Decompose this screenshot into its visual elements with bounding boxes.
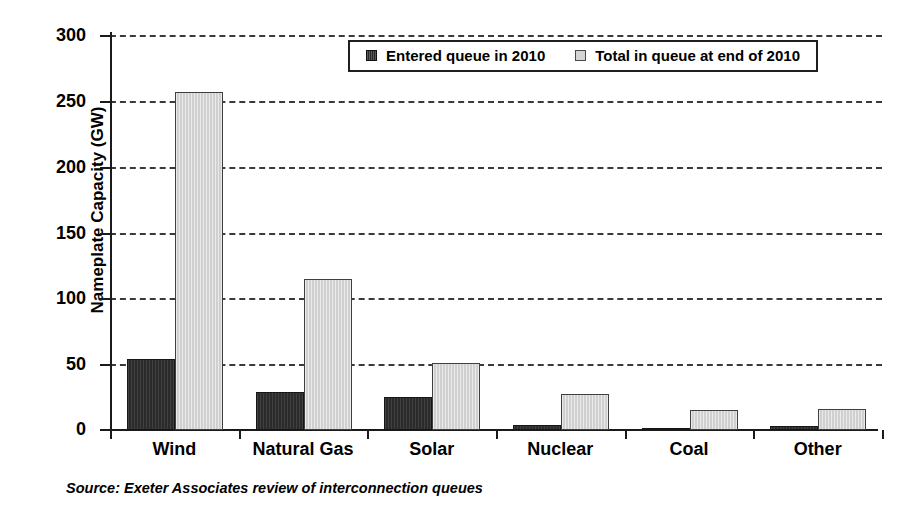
y-tick-label-200: 200 (56, 156, 86, 177)
bar-group-nuclear (496, 35, 625, 430)
light-square-icon (575, 50, 586, 61)
bar-group-other (753, 35, 882, 430)
bar-group-solar (367, 35, 496, 430)
bar-natural-gas-entered-queue[interactable] (256, 392, 304, 430)
y-tick-label-300: 300 (56, 25, 86, 46)
bar-group-natural-gas (239, 35, 368, 430)
bar-wind-total-queue[interactable] (175, 92, 223, 430)
y-axis-title: Nameplate Capacity (GW) (88, 20, 108, 400)
x-category-label-other: Other (753, 439, 882, 460)
bar-nuclear-total-queue[interactable] (561, 394, 609, 430)
x-tick-solar-left (367, 430, 369, 439)
x-tick-other-right (882, 430, 884, 439)
chart-legend: Entered queue in 2010 Total in queue at … (348, 40, 818, 72)
bar-other-entered-queue[interactable] (770, 426, 818, 430)
x-category-label-nuclear: Nuclear (496, 439, 625, 460)
x-tick-wind-left (110, 430, 112, 439)
x-tick-coal-left (625, 430, 627, 439)
dark-square-icon (366, 50, 377, 61)
bar-group-coal (625, 35, 754, 430)
bar-coal-total-queue[interactable] (690, 410, 738, 430)
bar-nuclear-entered-queue[interactable] (513, 425, 561, 430)
bar-group-wind (110, 35, 239, 430)
bar-coal-entered-queue[interactable] (642, 428, 690, 430)
x-category-label-natural-gas: Natural Gas (239, 439, 368, 460)
bar-other-total-queue[interactable] (818, 409, 866, 430)
legend-entry-total-queue[interactable]: Total in queue at end of 2010 (575, 47, 800, 64)
bar-natural-gas-total-queue[interactable] (304, 279, 352, 430)
bar-solar-entered-queue[interactable] (384, 397, 432, 430)
x-category-label-solar: Solar (367, 439, 496, 460)
x-category-label-coal: Coal (625, 439, 754, 460)
x-tick-other-left (753, 430, 755, 439)
bar-solar-total-queue[interactable] (432, 363, 480, 430)
legend-label-total-queue: Total in queue at end of 2010 (595, 47, 800, 64)
legend-entry-entered-queue[interactable]: Entered queue in 2010 (366, 47, 545, 64)
x-tick-nuclear-left (496, 430, 498, 439)
y-tick-label-150: 150 (56, 222, 86, 243)
y-tick-label-250: 250 (56, 90, 86, 111)
chart-page: Nameplate Capacity (GW) 300 250 200 150 … (0, 0, 914, 526)
bar-wind-entered-queue[interactable] (127, 359, 175, 430)
y-tick-label-100: 100 (56, 288, 86, 309)
y-tick-label-50: 50 (66, 354, 86, 375)
x-tick-natural-gas-left (239, 430, 241, 439)
legend-label-entered-queue: Entered queue in 2010 (386, 47, 545, 64)
x-category-label-wind: Wind (110, 439, 239, 460)
source-note: Source: Exeter Associates review of inte… (66, 480, 483, 496)
y-tick-label-0: 0 (76, 419, 86, 440)
plot-area: 300 250 200 150 100 50 0 (110, 35, 882, 430)
